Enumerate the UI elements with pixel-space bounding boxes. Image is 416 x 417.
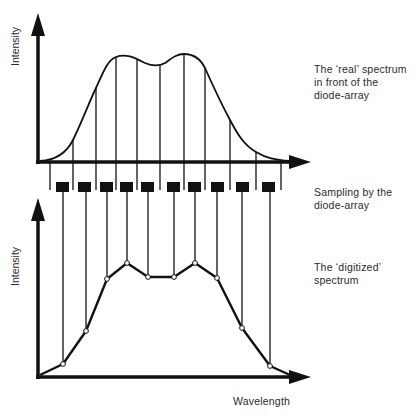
diode: [188, 182, 201, 192]
diode: [141, 182, 154, 192]
top-y-arrowhead: [31, 13, 45, 36]
bottom-x-arrowhead: [289, 370, 311, 384]
top-x-arrowhead: [289, 155, 311, 169]
diode: [56, 182, 69, 192]
real-spectrum-curve: [40, 54, 290, 161]
diode: [100, 182, 113, 192]
x-axis-label: Wavelength: [233, 395, 290, 408]
sampling-caption: Sampling by the diode-array: [314, 186, 392, 212]
sampling-lines-top: [50, 54, 281, 190]
bottom-y-axis-label: Intensity: [9, 247, 21, 286]
diode: [167, 182, 180, 192]
digitized-spectrum-caption: The ‘digitized’ spectrum: [314, 261, 381, 287]
bottom-y-arrowhead: [31, 198, 45, 221]
real-spectrum-caption: The ‘real’ spectrum in front of the diod…: [314, 63, 407, 102]
diode: [262, 182, 275, 192]
sampling-lines-bottom: [63, 192, 270, 366]
bottom-panel: [31, 192, 311, 384]
diode: [120, 182, 133, 192]
top-panel: [31, 13, 311, 190]
diode: [78, 182, 91, 192]
top-y-axis-label: Intensity: [9, 27, 21, 66]
digitized-spectrum-line: [40, 263, 290, 375]
diode-array: [56, 182, 275, 192]
diode: [211, 182, 224, 192]
diode: [236, 182, 249, 192]
